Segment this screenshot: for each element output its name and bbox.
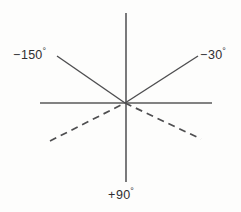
angle-label-positive-90-sign: + <box>108 188 116 202</box>
angle-label-negative-30: −30° <box>200 47 226 62</box>
angle-label-negative-30-value: 30 <box>208 48 222 62</box>
degree-symbol-icon: ° <box>130 186 134 196</box>
solid-ray-upper-right <box>125 56 198 103</box>
angle-label-negative-150: −150° <box>13 47 46 62</box>
dashed-ray-lower-right <box>125 103 201 139</box>
angle-label-negative-150-value: 150 <box>21 48 42 62</box>
solid-ray-upper-left <box>57 56 125 103</box>
angle-label-negative-150-sign: − <box>13 48 21 62</box>
degree-symbol-icon: ° <box>42 46 46 56</box>
angle-label-negative-30-sign: − <box>200 48 208 62</box>
angle-label-positive-90: +90° <box>108 187 134 202</box>
degree-symbol-icon: ° <box>222 46 226 56</box>
angle-diagram-canvas <box>0 0 241 212</box>
angle-label-positive-90-value: 90 <box>116 188 130 202</box>
dashed-ray-lower-left <box>50 103 125 141</box>
angle-diagram-figure: −150° −30° +90° <box>0 0 241 212</box>
